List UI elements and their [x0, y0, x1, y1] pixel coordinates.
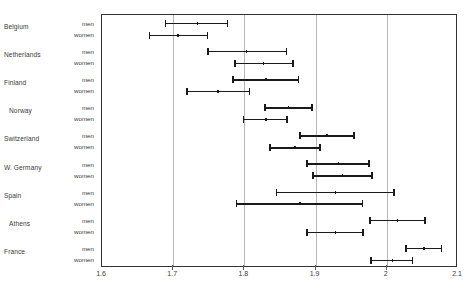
interval-center-marker: [265, 118, 267, 121]
interval-cap-low: [269, 144, 271, 151]
category-label: France: [4, 247, 25, 254]
interval-cap-high: [227, 20, 229, 27]
interval-cap-low: [149, 32, 151, 39]
category-labels-column: BelgiummenwomenNetherlandsmenwomenFinlan…: [0, 14, 100, 267]
interval-switzerland-women: [269, 143, 320, 152]
series-label-men: men: [82, 132, 94, 139]
interval-athens-women: [306, 228, 364, 237]
interval-belgium-men: [165, 19, 228, 28]
interval-center-marker: [326, 134, 328, 137]
series-label-men: men: [82, 48, 94, 55]
category-group-france: Francemenwomen: [0, 239, 100, 267]
category-group-w-germany: W. Germanymenwomen: [0, 155, 100, 183]
interval-finland-men: [232, 75, 299, 84]
interval-center-marker: [288, 106, 290, 109]
series-label-men: men: [82, 161, 94, 168]
interval-center-marker: [397, 219, 399, 222]
category-group-belgium: Belgiummenwomen: [0, 14, 100, 42]
interval-norway-women: [243, 115, 288, 124]
series-label-women: women: [74, 228, 94, 235]
series-label-women: women: [74, 87, 94, 94]
interval-center-marker: [338, 162, 340, 165]
interval-cap-low: [264, 104, 266, 111]
interval-cap-low: [276, 189, 278, 196]
plot-area: [101, 14, 457, 267]
category-group-finland: Finlandmenwomen: [0, 70, 100, 98]
x-tick-mark: [315, 265, 316, 270]
x-tick-mark: [243, 265, 244, 270]
interval-center-marker: [335, 191, 337, 194]
x-tick-label: 2.1: [452, 270, 462, 277]
x-tick-label: 1.7: [167, 270, 177, 277]
category-group-athens: Athensmenwomen: [0, 211, 100, 239]
interval-center-marker: [392, 259, 394, 262]
series-label-women: women: [74, 143, 94, 150]
interval-cap-low: [306, 160, 308, 167]
interval-cap-high: [292, 60, 294, 67]
interval-cap-low: [234, 60, 236, 67]
series-label-men: men: [82, 245, 94, 252]
series-label-men: men: [82, 104, 94, 111]
interval-cap-high: [371, 172, 373, 179]
category-group-netherlands: Netherlandsmenwomen: [0, 42, 100, 70]
interval-cap-low: [236, 200, 238, 207]
interval-center-marker: [265, 78, 267, 81]
category-label: Spain: [4, 191, 21, 198]
category-label: Norway: [9, 107, 32, 114]
series-label-women: women: [74, 200, 94, 207]
interval-cap-high: [286, 116, 288, 123]
series-label-men: men: [82, 217, 94, 224]
series-label-men: men: [82, 76, 94, 83]
interval-cap-low: [232, 76, 234, 83]
interval-w-germany-men: [306, 159, 369, 168]
series-label-women: women: [74, 256, 94, 263]
x-tick-label: 2: [384, 270, 388, 277]
category-label: Belgium: [4, 23, 29, 30]
category-group-spain: Spainmenwomen: [0, 183, 100, 211]
interval-spain-women: [236, 199, 363, 208]
gridline-2: [387, 15, 388, 266]
interval-belgium-women: [149, 31, 208, 40]
series-label-men: men: [82, 189, 94, 196]
interval-cap-low: [370, 257, 372, 264]
interval-cap-high: [298, 76, 300, 83]
interval-center-marker: [335, 231, 337, 234]
interval-cap-high: [393, 189, 395, 196]
interval-cap-low: [186, 88, 188, 95]
interval-cap-low: [299, 132, 301, 139]
interval-cap-low: [306, 229, 308, 236]
interval-cap-high: [353, 132, 355, 139]
series-label-women: women: [74, 31, 94, 38]
gridline-1-7: [173, 15, 174, 266]
interval-center-marker: [294, 146, 296, 149]
interval-france-men: [405, 244, 442, 253]
category-label: Athens: [9, 219, 30, 226]
series-label-women: women: [74, 59, 94, 66]
interval-cap-low: [312, 172, 314, 179]
interval-cap-high: [249, 88, 251, 95]
x-axis-tick-labels: 1.61.71.81.922.1: [101, 270, 457, 284]
category-label: Finland: [4, 79, 26, 86]
series-label-men: men: [82, 20, 94, 27]
interval-cap-high: [412, 257, 414, 264]
interval-cap-low: [207, 48, 209, 55]
category-label: Netherlands: [4, 51, 41, 58]
x-tick-label: 1.9: [310, 270, 320, 277]
interval-finland-women: [186, 87, 250, 96]
interval-w-germany-women: [312, 171, 373, 180]
x-tick-mark: [172, 265, 173, 270]
x-tick-label: 1.6: [96, 270, 106, 277]
interval-france-women: [370, 256, 413, 265]
interval-netherlands-women: [234, 59, 293, 68]
interval-chart: BelgiummenwomenNetherlandsmenwomenFinlan…: [0, 0, 466, 299]
interval-norway-men: [264, 103, 312, 112]
interval-cap-low: [405, 245, 407, 252]
interval-cap-high: [286, 48, 288, 55]
interval-cap-high: [368, 160, 370, 167]
interval-cap-high: [319, 144, 321, 151]
interval-center-marker: [197, 22, 199, 25]
interval-center-marker: [177, 34, 179, 37]
interval-center-marker: [263, 62, 265, 65]
interval-center-marker: [246, 50, 248, 53]
category-group-norway: Norwaymenwomen: [0, 98, 100, 126]
